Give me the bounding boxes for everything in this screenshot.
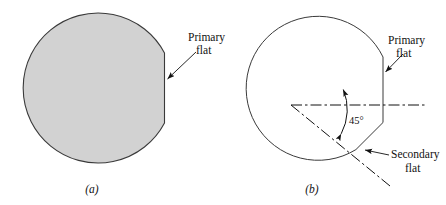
wafer-outline-b — [246, 16, 383, 160]
primary-flat-label-a-line2: flat — [196, 44, 212, 56]
secondary-flat-leader-b — [365, 150, 389, 155]
angle-label-b: 45° — [349, 115, 364, 126]
primary-flat-label-b-line2: flat — [396, 47, 412, 59]
primary-flat-leader-a — [168, 52, 197, 79]
caption-a: (a) — [85, 183, 99, 196]
secondary-flat-label-b-line1: Secondary — [391, 148, 440, 161]
primary-flat-label-a-line1: Primary — [188, 31, 225, 44]
panel-b: 45° Primary flat Secondary flat (b) — [246, 16, 440, 196]
panel-a: Primary flat (a) — [23, 13, 225, 196]
wafer-disc-a — [23, 13, 164, 163]
figure-canvas: Primary flat (a) 45° Primary flat Second… — [0, 0, 446, 205]
angle-arc-b — [341, 90, 347, 134]
diagonal-centerline-b — [291, 105, 390, 186]
secondary-flat-label-b-line2: flat — [405, 162, 421, 174]
caption-b: (b) — [305, 183, 319, 196]
wafer-flats-figure: Primary flat (a) 45° Primary flat Second… — [0, 0, 446, 205]
primary-flat-label-b-line1: Primary — [388, 34, 425, 47]
